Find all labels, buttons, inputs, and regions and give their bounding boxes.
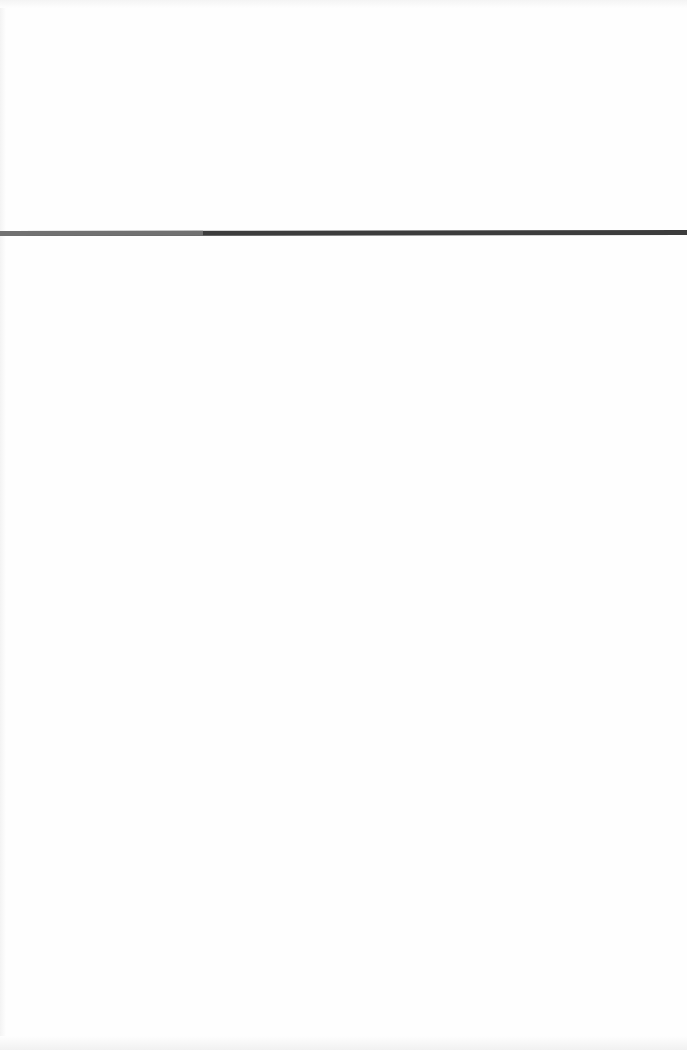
page-edge-shadow-top <box>0 0 687 8</box>
page-edge-shadow-left <box>0 0 6 1050</box>
blank-page <box>0 0 687 1050</box>
progress-bar-fill <box>0 231 203 236</box>
progress-bar <box>0 230 687 236</box>
page-edge-shadow-bottom <box>0 1036 687 1050</box>
